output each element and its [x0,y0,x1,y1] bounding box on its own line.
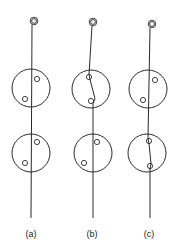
diagram-canvas: (a) (b) (c) [0,0,177,249]
ring-inner [91,20,96,25]
panel-label-b: (b) [87,229,98,239]
ring-inner [150,22,155,27]
upper-large-circle [12,69,50,107]
upper-small-dot-2 [22,96,27,101]
panel-a: (a) [12,17,50,239]
lower-small-dot-1 [34,139,39,144]
upper-small-dot-2 [140,97,145,102]
upper-small-dot-1 [152,77,157,82]
panel-label-c: (c) [144,229,155,239]
lower-small-dot-2 [81,160,86,165]
string-line [31,25,32,218]
upper-small-dot-1 [34,76,39,81]
lower-small-dot-2 [22,160,27,165]
upper-large-circle [129,70,167,108]
string-line-bent [89,26,95,218]
ring-inner [32,19,37,24]
panel-b: (b) [72,18,112,239]
upper-small-dot-2 [88,98,93,103]
panel-c: (c) [128,20,167,239]
panel-label-a: (a) [26,229,37,239]
string-line-bent [148,28,151,218]
lower-small-dot-1 [94,139,99,144]
